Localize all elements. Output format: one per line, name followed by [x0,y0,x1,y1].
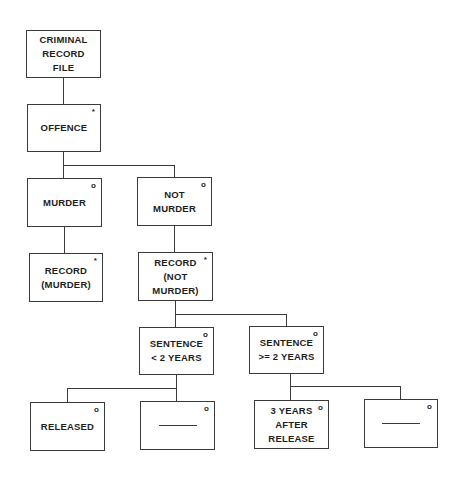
connector-to-not-murder [174,165,175,177]
node-label: RECORD (MURDER) [41,264,91,292]
node-sentence-lt-2-years: SENTENCE < 2 YEARS o [139,327,214,375]
connector-to-sentence-lt [175,314,176,327]
node-label: OFFENCE [41,121,88,135]
connector-file-offence [63,77,64,104]
node-label: NOT MURDER [153,188,196,216]
node-sentence-ge-2-years: SENTENCE >= 2 YEARS o [249,326,324,374]
node-label: SENTENCE < 2 YEARS [150,337,203,365]
connector-not-murder-record [174,225,175,252]
connector-sentence-lt-down [176,374,177,388]
connector-murder-record [64,226,65,253]
node-label: MURDER [43,196,86,210]
connector-sentence-ge-down [290,373,291,386]
selection-marker-icon: o [201,181,206,189]
node-blank-2: o [364,399,438,448]
iteration-marker-icon: * [92,108,95,116]
connector-to-sentence-ge [286,314,287,326]
selection-marker-icon: o [427,403,432,411]
selection-marker-icon: o [204,405,209,413]
connector-offence-branch [63,165,175,166]
node-label: 3 YEARS AFTER RELEASE [268,404,314,446]
connector-to-released [67,388,68,402]
node-3-years-after-release: 3 YEARS AFTER RELEASE o [254,400,329,449]
node-record-not-murder: RECORD (NOT MURDER) * [138,252,213,301]
connector-sentence-ge-branch [290,386,401,387]
iteration-marker-icon: * [94,257,97,265]
node-not-murder: NOT MURDER o [137,177,212,226]
node-record-murder: RECORD (MURDER) * [29,253,103,302]
connector-offence-down [63,151,64,165]
node-released: RELEASED o [30,402,105,451]
node-criminal-record-file: CRIMINAL RECORD FILE [26,30,101,78]
selection-marker-icon: o [203,331,208,339]
empty-action-line [382,423,420,424]
empty-action-line [159,425,197,426]
node-blank-1: o [140,401,215,450]
connector-to-3-years [290,386,291,400]
node-murder: MURDER o [27,178,102,227]
structure-diagram: CRIMINAL RECORD FILE OFFENCE * MURDER o … [0,0,466,478]
connector-to-murder [63,165,64,178]
selection-marker-icon: o [91,182,96,190]
node-label: SENTENCE >= 2 YEARS [258,336,314,364]
connector-sentence-lt-branch [67,388,177,389]
connector-record-branch [175,314,287,315]
node-label: CRIMINAL RECORD FILE [39,33,87,75]
selection-marker-icon: o [94,406,99,414]
connector-to-blank-2 [400,386,401,399]
connector-record-down [175,300,176,314]
node-label: RECORD (NOT MURDER) [139,256,212,298]
selection-marker-icon: o [313,330,318,338]
node-offence: OFFENCE * [27,104,101,152]
selection-marker-icon: o [318,404,323,412]
iteration-marker-icon: * [204,256,207,264]
node-label: RELEASED [41,420,94,434]
connector-to-blank-1 [176,388,177,401]
